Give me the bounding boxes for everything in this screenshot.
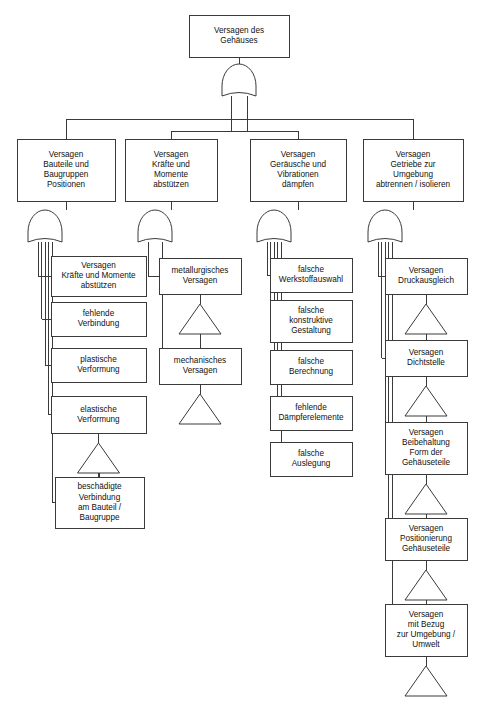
level2-node-box-3-label: dämpfen [282, 180, 314, 189]
column-3-node-box-4-label: Dämpferelemente [278, 413, 344, 422]
fault-tree-canvas: Versagen desGehäusesVersagenBauteile und… [0, 0, 479, 710]
column-4-node-box-4-label: Versagen [409, 524, 444, 533]
column-4-transfer-triangle-2 [405, 386, 447, 416]
level2-node-box-4-label: Versagen [396, 150, 431, 159]
column-3-node-box-3-label: Berechnung [289, 367, 334, 376]
level2-node-box-1-label: Baugruppen [44, 170, 89, 179]
column-1-node-box-5-label: Baugruppe [79, 513, 120, 522]
column-1-node-box-3-label: plastische [80, 355, 117, 364]
column-4-node-box-4-label: Gehäuseteile [402, 544, 451, 553]
level2-node-box-3-label: Versagen [281, 150, 316, 159]
fault-tree-diagram: Versagen desGehäusesVersagenBauteile und… [0, 0, 479, 710]
level2-node-box-1-label: Versagen [49, 150, 84, 159]
column-4-node-box-5-label: Umwelt [412, 640, 440, 649]
column-3-node-box-2-label: konstruktive [289, 316, 333, 325]
column-4-node-box-3-label: Form der [409, 448, 442, 457]
level2-node-box-3-label: Vibrationen [277, 170, 319, 179]
level2-node-box-4-label: Umgebung [393, 170, 434, 179]
column-4-node-box-2-label: Dichtstelle [407, 358, 445, 367]
column-1-node-box-1-label: Kräfte und Momente [61, 271, 136, 280]
column-4-node-box-2-label: Versagen [409, 348, 444, 357]
column-2-node-box-1-label: metallurgisches [172, 266, 229, 275]
column-4-transfer-triangle-3 [405, 484, 447, 514]
level2-node-box-3-label: Geräusche und [270, 160, 326, 169]
column-4-node-box-3-label: Gehäuseteile [402, 458, 451, 467]
column-4-node-box-5-label: zur Umgebung / [397, 630, 456, 639]
level2-node-box-4-label: Getriebe zur [390, 160, 435, 169]
column-3-node-box-1-label: Werkstoffauswahl [279, 275, 343, 284]
column-4-node-box-3-label: Versagen [409, 428, 444, 437]
column-4-node-box-1-label: Druckausgleich [398, 276, 454, 285]
column-3-node-box-4-label: fehlende [295, 403, 327, 412]
level2-node-box-2-label: Momente [154, 170, 189, 179]
level2-node-box-2-label: Kräfte und [152, 160, 190, 169]
column-2-node-box-2-label: Versagen [183, 366, 218, 375]
level2-node-box-4-label: abtrennen / isolieren [376, 180, 451, 189]
level2-node-box-2-label: abstützen [153, 180, 189, 189]
column-3-node-box-5-label: Auslegung [292, 459, 331, 468]
column-4-node-box-4-label: Positionierung [400, 534, 452, 543]
column-1-node-box-1-label: abstützen [81, 281, 117, 290]
column-3-node-box-3-label: falsche [298, 357, 324, 366]
root-node-box-label: Gehäuses [220, 36, 257, 45]
column-1-node-box-1-label: Versagen [81, 261, 116, 270]
column-3-node-box-5-label: falsche [298, 449, 324, 458]
column-3-node-box-2-label: falsche [298, 306, 324, 315]
column-2-node-box-1-label: Versagen [183, 276, 218, 285]
level2-node-box-2-label: Versagen [154, 150, 189, 159]
column-1-node-box-5-label: am Bauteil / [78, 503, 122, 512]
column-2-node-box-2-label: mechanisches [174, 356, 226, 365]
column-4-node-box-3-label: Beibehaltung [402, 438, 450, 447]
column-1-node-box-3-label: Verformung [77, 365, 120, 374]
column-4-node-box-1-label: Versagen [409, 266, 444, 275]
root-node-box-label: Versagen des [214, 26, 264, 35]
column-4-node-box-5-label: mit Bezug [408, 620, 445, 629]
column-1-or-gate [28, 210, 62, 242]
column-1-node-box-5-label: beschädigte [77, 482, 122, 491]
column-1-node-box-4-label: elastische [80, 405, 117, 414]
column-4-or-gate [368, 210, 402, 242]
node-box-layer [18, 16, 468, 657]
column-1-node-box-2-label: Verbindung [78, 319, 120, 328]
column-1-transfer-triangle-4 [78, 443, 120, 473]
column-1-node-box-4-label: Verformung [77, 415, 120, 424]
column-3-or-gate [257, 210, 291, 242]
level2-node-box-1-label: Positionen [47, 180, 86, 189]
column-2-or-gate [138, 210, 172, 242]
root-or-gate [222, 64, 256, 96]
column-4-transfer-triangle-5 [405, 666, 447, 696]
column-4-node-box-5-label: Versagen [409, 610, 444, 619]
column-1-node-box-2-label: fehlende [83, 309, 115, 318]
column-4-transfer-triangle-1 [405, 304, 447, 334]
column-2-transfer-triangle-2 [179, 394, 221, 424]
column-1-node-box-5-label: Verbindung [79, 493, 121, 502]
column-4-transfer-triangle-4 [405, 570, 447, 600]
column-2-transfer-triangle-1 [179, 304, 221, 334]
column-3-node-box-1-label: falsche [298, 265, 324, 274]
column-3-node-box-2-label: Gestaltung [291, 326, 331, 335]
level2-node-box-1-label: Bauteile und [43, 160, 89, 169]
